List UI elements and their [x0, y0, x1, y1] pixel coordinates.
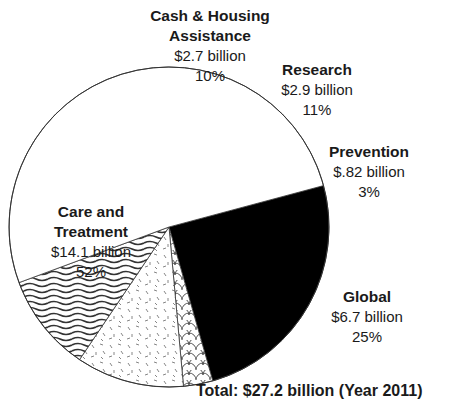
label-care-treatment: Care and Treatment $14.1 billion 52% [36, 202, 146, 282]
label-research: Research $2.9 billion 11% [262, 60, 372, 120]
label-global: Global $6.7 billion 25% [312, 287, 422, 347]
total-caption: Total: $27.2 billion (Year 2011) [196, 382, 422, 400]
label-prevention: Prevention $.82 billion 3% [314, 142, 424, 202]
